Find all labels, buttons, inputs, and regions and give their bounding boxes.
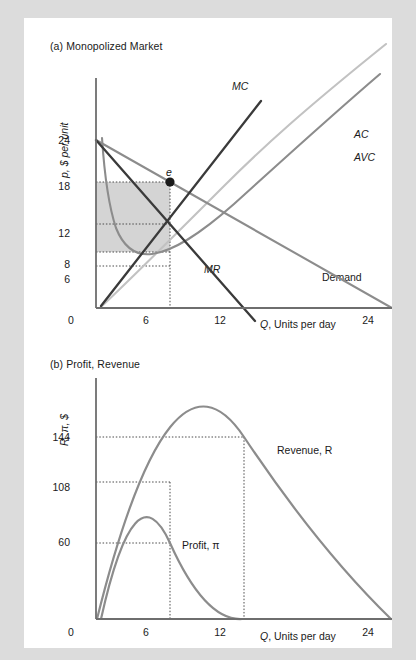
panel-a-plot bbox=[24, 18, 392, 336]
equilibrium-point-marker bbox=[165, 177, 174, 186]
panel-profit-revenue: (b) Profit, Revenue R, π, $ Q, Units per… bbox=[24, 336, 392, 648]
avc-curve bbox=[102, 44, 386, 306]
figure-card: (a) Monopolized Market p, $ per unit Q, … bbox=[24, 18, 392, 648]
panel-monopolized-market: (a) Monopolized Market p, $ per unit Q, … bbox=[24, 18, 392, 336]
panel-b-guide-lines bbox=[96, 437, 244, 619]
panel-b-plot bbox=[24, 336, 392, 648]
revenue-curve bbox=[97, 407, 391, 619]
